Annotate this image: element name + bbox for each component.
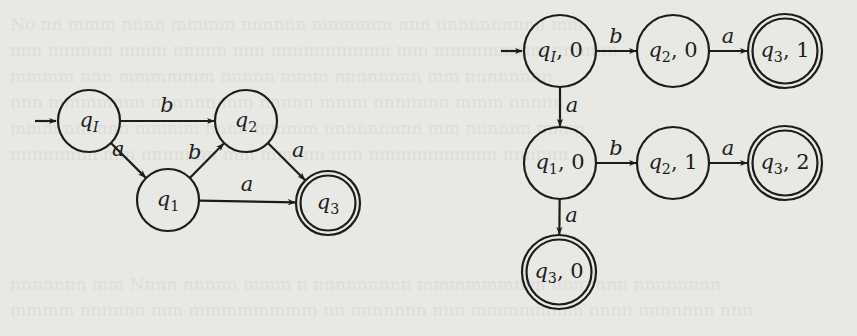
state-label: qI, 0 (537, 38, 583, 65)
state-q2-0: q2, 0 (637, 15, 709, 87)
transition-q1-to-q3: a (199, 172, 295, 202)
transition-label: b (160, 93, 173, 117)
transition-label: a (722, 136, 735, 160)
transition-label: a (722, 24, 735, 48)
transition-label: a (566, 93, 579, 117)
state-q3-0: q3, 0 (522, 235, 596, 309)
state-qi: qI (58, 90, 120, 152)
left-automaton: babaaqIq2q1q3 (35, 90, 360, 235)
transition-qi-0-to-q2-0: b (596, 24, 636, 51)
state-label: q3, 2 (760, 150, 809, 177)
transition-label: b (188, 140, 201, 164)
transition-q1-0-to-q2-1: b (596, 136, 636, 163)
transition-q1-to-q2: b (188, 140, 224, 178)
transition-q2-to-q3: a (268, 138, 305, 179)
arrow-icon (199, 201, 295, 203)
transition-q2-0-to-q3-1: a (709, 24, 747, 51)
state-label: qI (79, 108, 98, 135)
state-label: q3 (317, 190, 340, 217)
automata-diagram: babaaqIq2q1q3 baabaaqI, 0q2, 0q3, 1q1, 0… (0, 0, 857, 336)
state-label: q2, 1 (648, 150, 697, 177)
transition-label: b (609, 24, 622, 48)
state-q3-2: q3, 2 (748, 126, 822, 200)
state-q1-0: q1, 0 (524, 127, 596, 199)
state-label: q3, 1 (760, 38, 809, 65)
transition-qi-to-q2: b (120, 93, 214, 121)
state-label: q2, 0 (648, 38, 697, 65)
transition-label: a (565, 203, 578, 227)
transition-label: a (241, 172, 254, 196)
transition-label: a (292, 138, 305, 162)
state-label: q2 (235, 108, 258, 135)
transition-qi-0-to-q1-0: a (560, 87, 578, 126)
right-automaton: baabaaqI, 0q2, 0q3, 1q1, 0q2, 1q3, 2q3, … (501, 14, 822, 309)
automata-figure: No nn mmm nnnn mmmm nnnnnn mmmmm nnn nnn… (0, 0, 857, 336)
state-q3: q3 (296, 171, 360, 235)
state-label: q1 (157, 187, 180, 214)
state-q1: q1 (137, 169, 199, 231)
transition-q2-1-to-q3-2: a (709, 136, 747, 163)
transition-qi-to-q1: a (111, 137, 145, 177)
state-q2: q2 (215, 90, 277, 152)
state-label: q1, 0 (535, 150, 584, 177)
transition-q1-0-to-q3-0: a (559, 199, 577, 234)
transition-label: b (609, 136, 622, 160)
state-qi-0: qI, 0 (524, 15, 596, 87)
state-label: q3, 0 (534, 259, 583, 286)
state-q3-1: q3, 1 (748, 14, 822, 88)
state-q2-1: q2, 1 (637, 127, 709, 199)
